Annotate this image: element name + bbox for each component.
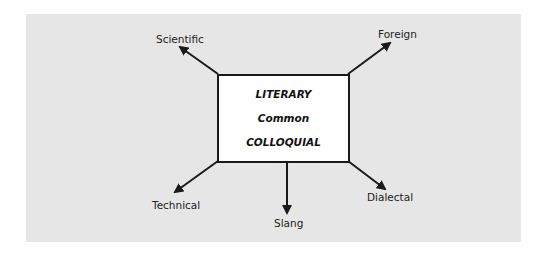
label-technical: Technical (152, 199, 200, 211)
arrow-dialectal (348, 161, 385, 189)
arrow-foreign (348, 43, 390, 74)
box-line-colloquial: COLLOQUIAL (219, 136, 348, 148)
box-line-common: Common (219, 112, 348, 124)
box-line-literary: LITERARY (219, 88, 348, 100)
center-box: LITERARY Common COLLOQUIAL (217, 74, 350, 163)
arrow-technical (175, 161, 218, 192)
label-foreign: Foreign (378, 28, 417, 40)
label-scientific: Scientific (156, 33, 204, 45)
label-dialectal: Dialectal (367, 191, 413, 203)
label-slang: Slang (274, 217, 303, 229)
arrow-scientific (180, 47, 218, 74)
